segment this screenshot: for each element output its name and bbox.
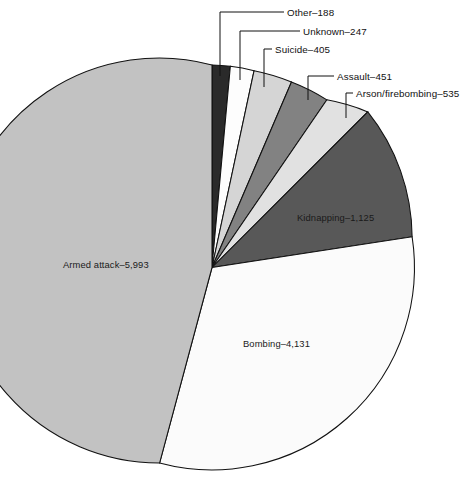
callout-label-other: Other–188: [287, 7, 335, 18]
slice-label-armed-attack: Armed attack–5,993: [63, 259, 149, 270]
pie-chart-canvas: Armed attack–5,993 Bombing–4,131 Kidnapp…: [0, 0, 475, 479]
pie-chart: Armed attack–5,993 Bombing–4,131 Kidnapp…: [0, 0, 475, 479]
slice-label-bombing: Bombing–4,131: [243, 338, 310, 349]
callout-label-unknown: Unknown–247: [303, 26, 367, 37]
slice-label-kidnapping: Kidnapping–1,125: [297, 212, 374, 223]
callout-label-arson: Arson/firebombing–535: [356, 88, 460, 99]
callout-label-suicide: Suicide–405: [275, 44, 330, 55]
callout-label-assault: Assault–451: [337, 71, 392, 82]
